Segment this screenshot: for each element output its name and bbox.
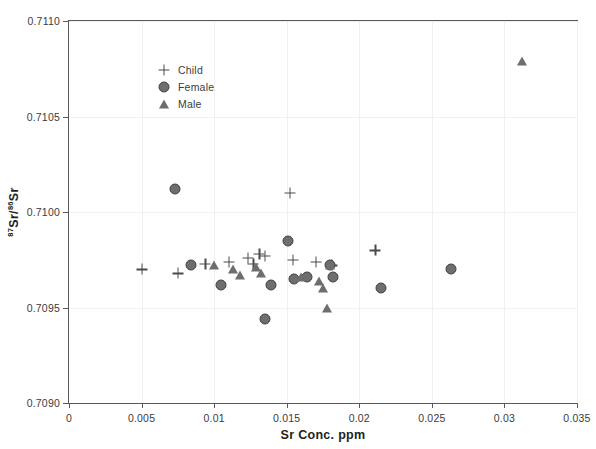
x-axis-tick: [432, 403, 433, 408]
x-axis-tick: [287, 403, 288, 408]
data-point-female: [259, 313, 270, 324]
legend-marker-triangle-icon: [157, 98, 171, 110]
x-axis-tick: [214, 403, 215, 408]
data-point-female: [283, 235, 294, 246]
legend-marker-circle-icon: [157, 81, 171, 93]
scatter-chart-figure: 87Sr/86Sr 0.70900.70950.71000.71050.7110…: [0, 0, 596, 449]
y-axis-tick: [63, 212, 69, 213]
data-point-female: [445, 264, 456, 275]
y-axis-tick: [63, 117, 69, 118]
y-axis-title-sup-86: 86: [6, 201, 15, 210]
plot-area: 0.70900.70950.71000.71050.711000.0050.01…: [68, 20, 578, 404]
y-axis-tick: [63, 21, 69, 22]
legend-symbol: [159, 64, 170, 75]
y-axis-tick-label: 0.7095: [27, 302, 60, 314]
data-point-male: [209, 261, 219, 270]
legend-symbol: [159, 81, 170, 92]
legend-symbol: [159, 99, 169, 108]
x-axis-tick-label: 0: [66, 412, 72, 424]
chart-legend: ChildFemaleMale: [157, 61, 214, 112]
x-axis-tick-label: 0.015: [273, 412, 300, 424]
x-axis-tick-label: 0.03: [494, 412, 515, 424]
legend-label: Child: [178, 64, 203, 76]
x-axis-tick-label: 0.025: [418, 412, 445, 424]
data-point-female: [169, 184, 180, 195]
legend-item-male: Male: [157, 95, 214, 112]
y-axis-title-sup-87: 87: [6, 228, 15, 237]
data-point-female: [376, 283, 387, 294]
data-point-female: [216, 279, 227, 290]
x-axis-tick-label: 0.035: [563, 412, 590, 424]
y-axis-tick: [63, 308, 69, 309]
data-point-child: [136, 264, 147, 275]
data-point-child: [172, 268, 183, 279]
data-point-child: [284, 187, 295, 198]
data-point-child: [259, 250, 270, 261]
data-point-child: [310, 256, 321, 267]
x-axis-tick-label: 0.01: [204, 412, 225, 424]
x-axis-tick-label: 0.02: [349, 412, 370, 424]
y-axis-tick-label: 0.7090: [27, 397, 60, 409]
data-point-male: [318, 284, 328, 293]
y-axis-tick-label: 0.7105: [27, 111, 60, 123]
gridline-horizontal: [69, 212, 577, 213]
x-axis-tick: [504, 403, 505, 408]
y-axis-title: 87Sr/86Sr: [6, 187, 21, 236]
legend-label: Male: [178, 98, 202, 110]
data-point-female: [265, 279, 276, 290]
data-point-child: [370, 245, 381, 256]
legend-label: Female: [178, 81, 214, 93]
data-point-male: [296, 272, 306, 281]
gridline-horizontal: [69, 117, 577, 118]
x-axis-tick: [69, 403, 70, 408]
data-point-male: [256, 269, 266, 278]
data-point-female: [185, 260, 196, 271]
data-point-female: [328, 271, 339, 282]
x-axis-tick: [577, 403, 578, 408]
data-point-male: [235, 271, 245, 280]
x-axis-tick: [142, 403, 143, 408]
x-axis-tick: [359, 403, 360, 408]
legend-item-child: Child: [157, 61, 214, 78]
data-point-male: [322, 303, 332, 312]
x-axis-tick-label: 0.005: [128, 412, 155, 424]
legend-item-female: Female: [157, 78, 214, 95]
legend-marker-plus-icon: [157, 64, 171, 76]
y-axis-tick-label: 0.7110: [27, 15, 60, 27]
data-point-child: [287, 254, 298, 265]
gridline-horizontal: [69, 21, 577, 22]
y-axis-tick-label: 0.7100: [27, 206, 60, 218]
data-point-male: [517, 57, 527, 66]
gridline-vertical: [577, 21, 578, 403]
data-point-male: [325, 261, 335, 270]
x-axis-title: Sr Conc. ppm: [68, 428, 578, 442]
